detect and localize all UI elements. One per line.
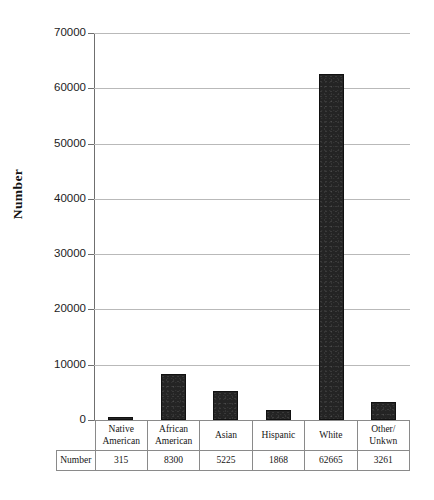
bar-chart-figure: Number 700006000050000400003000020000100… [0, 0, 434, 500]
y-tick-mark-70000 [88, 33, 94, 34]
data-table: NativeAmericanAfricanAmericanAsianHispan… [56, 420, 410, 471]
table-row-values: Number 315830052251868626653261 [57, 451, 410, 471]
table-header-cell-line: African [148, 424, 199, 436]
gridline-20000 [94, 309, 410, 310]
table-header-cell-line: Unkwn [358, 436, 409, 448]
table-row-categories: NativeAmericanAfricanAmericanAsianHispan… [57, 421, 410, 451]
plot-area [94, 33, 410, 420]
table-value-cell: 3261 [357, 451, 409, 471]
table-header-cell-line: Asian [200, 430, 251, 442]
table-header-cell: NativeAmerican [95, 421, 147, 451]
gridline-50000 [94, 144, 410, 145]
table-header-cell-line: White [305, 430, 356, 442]
y-tick-mark-30000 [88, 254, 94, 255]
y-tick-label-10000: 10000 [14, 358, 86, 370]
table-corner-cell [57, 421, 96, 451]
y-tick-mark-40000 [88, 199, 94, 200]
gridline-30000 [94, 254, 410, 255]
y-tick-mark-10000 [88, 365, 94, 366]
table-header-cell-line: Other/ [358, 424, 409, 436]
table-header-cell: Hispanic [252, 421, 304, 451]
table-value-cell: 8300 [147, 451, 199, 471]
table-value-cell: 1868 [252, 451, 304, 471]
gridline-70000 [94, 33, 410, 34]
table-header-cell-line: Native [96, 424, 147, 436]
y-tick-mark-50000 [88, 144, 94, 145]
table-header-cell: AfricanAmerican [147, 421, 199, 451]
table-header-cell: White [305, 421, 357, 451]
table-header-cell: Asian [200, 421, 252, 451]
y-tick-mark-60000 [88, 88, 94, 89]
table-row-header-number: Number [57, 451, 96, 471]
table-header-cell: Other/Unkwn [357, 421, 409, 451]
y-tick-label-50000: 50000 [14, 137, 86, 149]
table-header-cell-line: American [96, 436, 147, 448]
table-value-cell: 62665 [305, 451, 357, 471]
y-tick-label-20000: 20000 [14, 302, 86, 314]
y-tick-label-30000: 30000 [14, 247, 86, 259]
table-value-cell: 315 [95, 451, 147, 471]
y-tick-label-60000: 60000 [14, 81, 86, 93]
y-tick-mark-20000 [88, 309, 94, 310]
y-tick-label-40000: 40000 [14, 192, 86, 204]
gridline-40000 [94, 199, 410, 200]
table-value-cell: 5225 [200, 451, 252, 471]
table-header-cell-line: American [148, 436, 199, 448]
gridline-60000 [94, 88, 410, 89]
bar-african-american [161, 374, 186, 420]
bar-other-unkwn [371, 402, 396, 420]
gridline-10000 [94, 365, 410, 366]
bar-white [319, 74, 344, 420]
bar-hispanic [266, 410, 291, 420]
bar-asian [213, 391, 238, 420]
y-tick-mark-0 [88, 420, 94, 421]
table-header-cell-line: Hispanic [253, 430, 304, 442]
y-tick-label-70000: 70000 [14, 26, 86, 38]
